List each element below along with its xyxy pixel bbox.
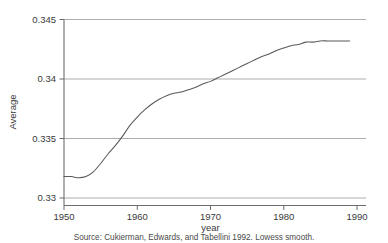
y-tick-marks	[60, 20, 65, 199]
y-tick-label-0335: 0.335	[32, 133, 56, 144]
x-tick-label-1950: 1950	[53, 211, 74, 222]
y-tick-label-033: 0.33	[38, 192, 57, 203]
x-tick-labels: 1950 1960 1970 1980 1990	[53, 211, 367, 222]
source-note: Source: Cukierman, Edwards, and Tabellin…	[74, 233, 315, 242]
chart-figure: 0.345 0.34 0.335 0.33 1950 1960 1970 198…	[0, 0, 388, 243]
x-axis-title: year	[201, 222, 219, 233]
x-tick-label-1970: 1970	[200, 211, 221, 222]
x-tick-label-1960: 1960	[127, 211, 148, 222]
x-tick-marks	[64, 206, 357, 211]
y-tick-label-034: 0.34	[38, 73, 57, 84]
x-tick-label-1990: 1990	[346, 211, 367, 222]
x-tick-label-1980: 1980	[273, 211, 294, 222]
y-axis-title: Average	[7, 94, 18, 129]
gridlines-group	[64, 20, 366, 199]
y-tick-label-0345: 0.345	[32, 14, 56, 25]
series-line-average	[64, 41, 350, 178]
chart-canvas: 0.345 0.34 0.335 0.33 1950 1960 1970 198…	[0, 0, 388, 243]
axes-group	[64, 20, 366, 206]
y-tick-labels: 0.345 0.34 0.335 0.33	[32, 14, 56, 204]
